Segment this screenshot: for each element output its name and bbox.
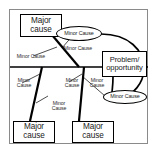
minor-cause-label: Minor Cause xyxy=(64,31,93,37)
minor-cause-ellipse-top[interactable]: Minor Cause xyxy=(56,26,102,41)
major-cause-box-bottom-left[interactable]: Major cause xyxy=(13,121,55,143)
minor-cause-text-center-upper: Minor Cause xyxy=(60,76,84,90)
minor-cause-label: Minor Cause xyxy=(90,78,105,89)
problem-opportunity-label: Problem/ opportunity xyxy=(106,56,142,72)
problem-opportunity-box[interactable]: Problem/ opportunity xyxy=(102,51,147,77)
major-cause-label: Major cause xyxy=(82,123,103,140)
minor-cause-label: Minor Cause xyxy=(17,78,32,89)
minor-cause-text-upper-center: Minor Cause xyxy=(56,44,100,53)
minor-cause-ellipse-bottom[interactable]: Minor Cause xyxy=(103,90,147,104)
minor-cause-label: Minor Cause xyxy=(64,46,92,51)
major-cause-label: Major cause xyxy=(23,123,44,140)
minor-cause-label: Minor Cause xyxy=(52,101,67,112)
fishbone-diagram-canvas: Major cause Major cause Major cause Prob… xyxy=(0,0,157,154)
minor-cause-text-left-lower: Minor Cause xyxy=(47,99,71,113)
minor-cause-text-left-upper: Minor Cause xyxy=(12,76,36,90)
major-cause-box-bottom-center[interactable]: Major cause xyxy=(72,121,114,143)
minor-cause-text-upper-left: Minor Cause xyxy=(10,52,52,61)
minor-cause-label: Minor Cause xyxy=(65,78,80,89)
minor-cause-label: Minor Cause xyxy=(110,94,139,100)
minor-cause-label: Minor Cause xyxy=(17,54,45,59)
major-cause-label: Major cause xyxy=(30,17,51,34)
minor-cause-text-center-lower: Minor Cause xyxy=(85,76,109,90)
